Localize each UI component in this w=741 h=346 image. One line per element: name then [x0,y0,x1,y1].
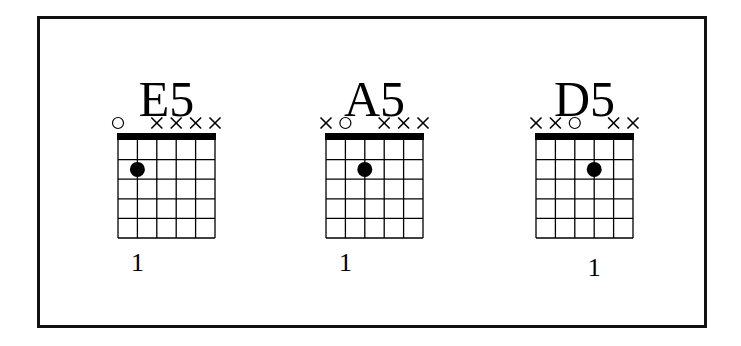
nut-bar [535,133,634,140]
chord-name: E5 [139,71,195,127]
open-string-icon [113,118,124,129]
finger-dot [130,162,145,177]
finger-dot [357,162,372,177]
nut-bar [117,133,216,140]
chord-name: D5 [554,71,615,127]
open-string-icon [569,118,580,129]
finger-number: 1 [131,248,144,277]
finger-number: 1 [339,248,352,277]
open-string-icon [340,118,351,129]
chord-name: A5 [344,71,405,127]
finger-dot [587,162,602,177]
chord-diagrams: E51A51D51 [0,0,741,346]
nut-bar [325,133,424,140]
finger-number: 1 [588,253,601,282]
